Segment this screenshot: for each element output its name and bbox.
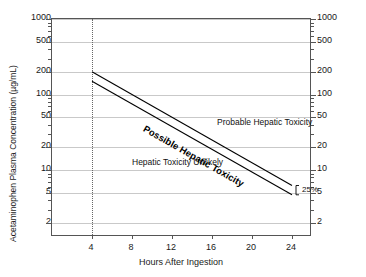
y-tick-right bbox=[310, 72, 316, 73]
y-minor-tick-left bbox=[48, 102, 52, 103]
y-axis-label-left: 5 bbox=[11, 187, 51, 196]
y-minor-tick-left bbox=[48, 31, 52, 32]
y-minor-tick-left bbox=[48, 111, 52, 112]
x-axis-label: 12 bbox=[156, 243, 186, 252]
y-tick-left bbox=[46, 193, 52, 194]
region-label-probable-hepatic-toxicity: Probable Hepatic Toxicity bbox=[217, 117, 312, 127]
y-minor-tick-left bbox=[48, 36, 52, 37]
y-tick-left bbox=[46, 170, 52, 171]
y-minor-tick-right bbox=[310, 98, 314, 99]
x-axis-label: 8 bbox=[116, 243, 146, 252]
gridline-y bbox=[52, 42, 310, 43]
y-minor-tick-left bbox=[48, 106, 52, 107]
y-tick-right bbox=[310, 147, 316, 148]
y-minor-tick-right bbox=[310, 210, 314, 211]
x-tick bbox=[172, 235, 173, 239]
y-minor-tick-right bbox=[310, 177, 314, 178]
annotation-percent-gap: 25% bbox=[302, 185, 318, 194]
y-axis-label-left: 100 bbox=[11, 89, 51, 98]
y-minor-tick-left bbox=[48, 210, 52, 211]
y-minor-tick-left bbox=[48, 26, 52, 27]
y-axis-label-left: 1000 bbox=[11, 13, 51, 22]
x-tick bbox=[132, 235, 133, 239]
y-tick-left bbox=[46, 117, 52, 118]
y-axis-label-right: 200 bbox=[317, 66, 359, 75]
y-minor-tick-right bbox=[310, 106, 314, 107]
x-axis-label: 24 bbox=[276, 243, 306, 252]
y-tick-right bbox=[310, 42, 316, 43]
y-minor-tick-right bbox=[310, 102, 314, 103]
y-axis-label-right: 100 bbox=[317, 89, 359, 98]
y-minor-tick-right bbox=[310, 182, 314, 183]
y-axis-label-right: 50 bbox=[317, 111, 359, 120]
y-tick-left bbox=[46, 42, 52, 43]
x-tick bbox=[92, 235, 93, 239]
y-tick-right bbox=[310, 223, 316, 224]
y-minor-tick-right bbox=[310, 49, 314, 50]
y-axis-label-left: 50 bbox=[11, 111, 51, 120]
x-axis-label: 20 bbox=[236, 243, 266, 252]
y-minor-tick-right bbox=[310, 134, 314, 135]
y-tick-left bbox=[46, 147, 52, 148]
gridline-y bbox=[52, 170, 310, 171]
x-tick bbox=[212, 235, 213, 239]
y-axis-label-left: 500 bbox=[11, 36, 51, 45]
y-minor-tick-right bbox=[310, 23, 314, 24]
y-tick-left bbox=[46, 223, 52, 224]
y-minor-tick-left bbox=[48, 182, 52, 183]
y-tick-left bbox=[46, 72, 52, 73]
y-axis-label-left: 20 bbox=[11, 141, 51, 150]
y-minor-tick-left bbox=[48, 59, 52, 60]
gridline-y bbox=[52, 19, 310, 20]
gridline-y bbox=[52, 95, 310, 96]
y-tick-right bbox=[310, 19, 316, 20]
y-minor-tick-left bbox=[48, 98, 52, 99]
y-tick-right bbox=[310, 95, 316, 96]
y-minor-tick-right bbox=[310, 26, 314, 27]
y-axis-label-right: 20 bbox=[317, 141, 359, 150]
nomogram-chart: Acetaminophen Plasma Concentration (µg/m… bbox=[0, 0, 366, 277]
reference-line-4-hour bbox=[92, 19, 93, 235]
x-axis-title: Hours After Ingestion bbox=[51, 257, 311, 267]
y-axis-label-left: 10 bbox=[11, 164, 51, 173]
y-minor-tick-left bbox=[48, 125, 52, 126]
x-axis-label: 4 bbox=[76, 243, 106, 252]
y-axis-label-right: 500 bbox=[317, 36, 359, 45]
y-minor-tick-right bbox=[310, 174, 314, 175]
plot-area: Probable Hepatic Toxicity Hepatic Toxici… bbox=[51, 18, 311, 236]
y-minor-tick-right bbox=[310, 31, 314, 32]
x-tick bbox=[292, 235, 293, 239]
y-minor-tick-left bbox=[48, 187, 52, 188]
y-minor-tick-right bbox=[310, 36, 314, 37]
y-axis-label-left: 2 bbox=[11, 217, 51, 226]
gridline-y bbox=[52, 72, 310, 73]
nomogram-upper-line bbox=[92, 72, 292, 186]
y-minor-tick-left bbox=[48, 134, 52, 135]
nomogram-lower-line bbox=[92, 81, 292, 195]
x-tick bbox=[252, 235, 253, 239]
nomogram-lines bbox=[52, 19, 312, 237]
y-minor-tick-left bbox=[48, 200, 52, 201]
y-axis-label-right: 1000 bbox=[317, 13, 359, 22]
y-axis-label-right: 2 bbox=[317, 217, 359, 226]
y-axis-label-right: 5 bbox=[317, 187, 359, 196]
y-tick-right bbox=[310, 170, 316, 171]
y-minor-tick-right bbox=[310, 59, 314, 60]
y-minor-tick-right bbox=[310, 200, 314, 201]
y-tick-left bbox=[46, 19, 52, 20]
gridline-y bbox=[52, 223, 310, 224]
gridline-y bbox=[52, 193, 310, 194]
y-minor-tick-left bbox=[48, 23, 52, 24]
y-minor-tick-left bbox=[48, 177, 52, 178]
y-minor-tick-right bbox=[310, 111, 314, 112]
y-axis-label-right: 10 bbox=[317, 164, 359, 173]
y-minor-tick-left bbox=[48, 174, 52, 175]
y-tick-left bbox=[46, 95, 52, 96]
y-minor-tick-left bbox=[48, 49, 52, 50]
y-axis-label-left: 200 bbox=[11, 66, 51, 75]
x-axis-label: 16 bbox=[196, 243, 226, 252]
